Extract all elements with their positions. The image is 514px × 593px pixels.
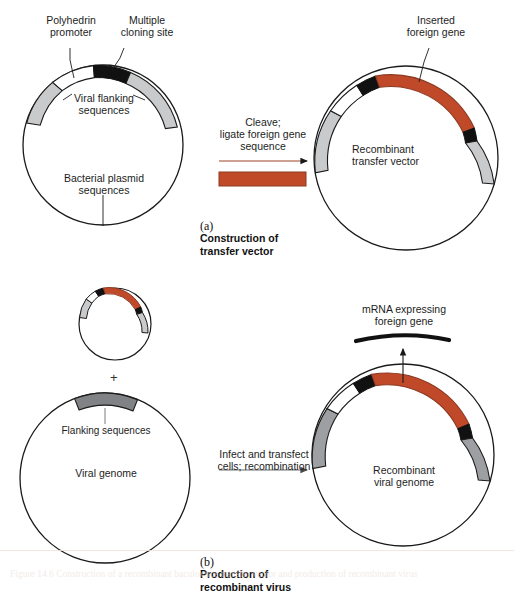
caption-b-marker: (b) xyxy=(200,555,214,569)
label-recombinant-transfer-vector: Recombinant transfer vector xyxy=(352,143,462,167)
label-bacterial-plasmid-sequences: Bacterial plasmid sequences xyxy=(46,172,162,196)
recombinant-viral-genome-plasmid xyxy=(312,364,494,546)
page-rule xyxy=(0,550,514,551)
mrna-transcript-arc xyxy=(356,335,449,341)
label-multiple-cloning-site: Multiple cloning site xyxy=(104,14,190,38)
caption-panel-a: (a) Construction of transfer vector xyxy=(200,207,340,257)
caption-a-text: Construction of transfer vector xyxy=(200,232,278,257)
small-recombinant-plasmid xyxy=(79,288,151,360)
foreign-gene-fragment xyxy=(219,172,306,186)
label-inserted-foreign-gene: Inserted foreign gene xyxy=(393,14,479,38)
label-mrna-expressing-foreign-gene: mRNA expressing foreign gene xyxy=(340,303,468,327)
label-viral-genome: Viral genome xyxy=(58,467,154,479)
step-label-infect-transfect: Infect and transfect cells; recombinatio… xyxy=(198,448,330,472)
label-polyhedrin-promoter: Polyhedrin promoter xyxy=(30,14,112,38)
label-plus-sign: + xyxy=(110,370,118,385)
label-viral-flanking-sequences: Viral flanking sequences xyxy=(61,92,147,116)
transfer-vector-plasmid xyxy=(23,48,183,226)
figure-caption-footer: Figure 14.6 Construction of a recombinan… xyxy=(10,569,504,579)
label-flanking-sequences: Flanking sequences xyxy=(38,425,174,437)
caption-a-marker: (a) xyxy=(200,219,213,233)
label-recombinant-viral-genome: Recombinant viral genome xyxy=(352,464,456,488)
step-label-cleave-ligate: Cleave; ligate foreign gene sequence xyxy=(198,116,328,152)
recombinant-genome-backbone-circle xyxy=(312,364,494,546)
